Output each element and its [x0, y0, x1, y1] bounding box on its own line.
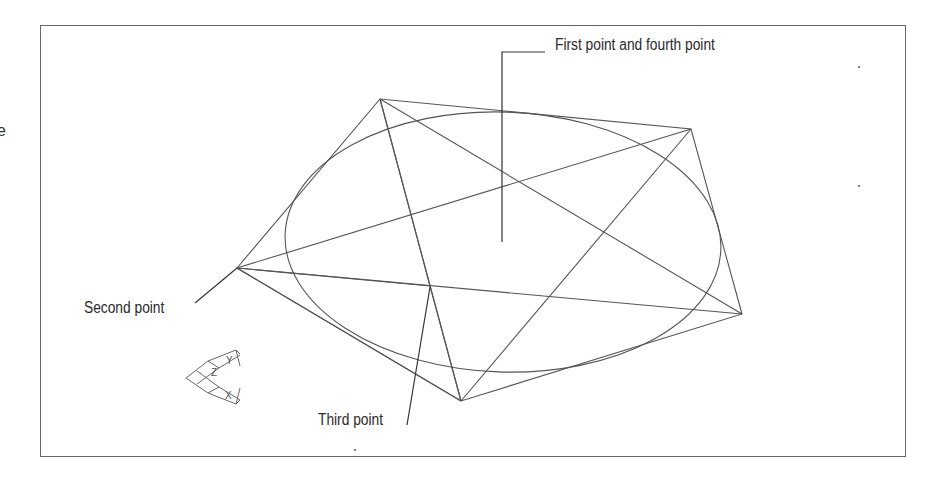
diagonal — [461, 129, 691, 401]
third-point-edge — [237, 268, 430, 286]
diagonal — [380, 99, 742, 314]
label-second-point: Second point — [84, 299, 164, 317]
speck — [858, 185, 860, 187]
ucs-y-label: Y — [226, 355, 233, 366]
outer-polygon — [237, 99, 742, 401]
leader-second-point — [195, 268, 237, 303]
label-first-and-fourth-point: First point and fourth point — [555, 36, 715, 54]
ucs-x-label: X — [225, 390, 232, 401]
speck — [858, 66, 860, 68]
label-third-point: Third point — [318, 411, 383, 429]
ucs-z-label: Z — [211, 367, 217, 378]
diagonal — [237, 129, 691, 268]
second-point-edge — [237, 268, 461, 401]
third-point-edge — [430, 286, 461, 401]
cad-drawing: Y Z X — [0, 0, 936, 484]
leader-first-point — [502, 52, 545, 242]
leader-third-point — [407, 287, 430, 425]
ellipse — [281, 104, 726, 379]
speck — [354, 449, 356, 451]
third-point-edge — [380, 99, 430, 286]
